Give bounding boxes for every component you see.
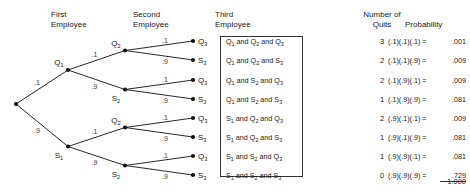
probability-value: .009	[440, 56, 466, 65]
tree-node-label: Q3	[198, 76, 207, 86]
probability-value: .081	[440, 95, 466, 104]
tree-node-label: Q3	[198, 152, 207, 162]
outcome-row: Q1 and S2 and Q3	[226, 76, 283, 86]
tree-edge	[125, 166, 193, 176]
outcome-row: Q1 and Q2 and S3	[226, 56, 283, 66]
edge-probability-label: .9	[162, 97, 168, 104]
tree-edge	[68, 147, 125, 166]
tree-edge	[125, 156, 193, 166]
probability-expression: (.9)(.1)(.1) =	[388, 114, 440, 123]
probability-row: (.9)(.9)(.1) =.081	[380, 152, 466, 161]
outcome-row: S1 and Q2 and S3	[226, 133, 282, 143]
probability-value: .001	[440, 37, 466, 46]
outcome-row: S1 and S2 and Q3	[226, 152, 282, 162]
probability-expression: (.1)(.9)(.1) =	[388, 76, 440, 85]
edge-probability-label: .1	[92, 128, 98, 135]
column-header-third-employee: Third Employee	[215, 10, 251, 29]
outcome-row: Q1 and S2 and S3	[226, 95, 282, 105]
tree-node-label: S1	[55, 151, 63, 161]
probability-row: (.1)(.1)(.9) =.009	[380, 56, 466, 65]
tree-node-label: S2	[112, 170, 120, 180]
probability-row: (.1)(.9)(.9) =.081	[380, 95, 466, 104]
edge-probability-label: .9	[92, 83, 98, 90]
tree-node	[191, 154, 195, 158]
tree-edge	[125, 80, 193, 90]
probability-expression: (.9)(.9)(.1) =	[388, 152, 440, 161]
probability-expression: (.1)(.1)(.1) =	[388, 37, 440, 46]
tree-edge	[125, 118, 193, 128]
tree-node	[191, 116, 195, 120]
tree-node-label: S3	[198, 133, 206, 143]
edge-probability-label: .9	[92, 159, 98, 166]
tree-node	[66, 144, 70, 148]
probability-value: .009	[440, 114, 466, 123]
tree-node	[191, 78, 195, 82]
column-header-probability: Probability	[405, 20, 442, 30]
edge-probability-label: .9	[162, 173, 168, 180]
tree-node-label: S2	[112, 94, 120, 104]
tree-node-label: Q1	[54, 58, 63, 68]
tree-edge	[125, 41, 193, 51]
probability-value: .081	[440, 152, 466, 161]
tree-node-label: Q2	[111, 116, 120, 126]
edge-probability-label: .1	[162, 152, 168, 159]
tree-node-label: Q3	[198, 114, 207, 124]
column-header-number-of-quits: Number of Quits	[352, 10, 412, 29]
outcome-row: S1 and Q2 and Q3	[226, 114, 283, 124]
tree-node	[191, 58, 195, 62]
probability-expression: (.9)(.1)(.9) =	[388, 133, 440, 142]
probability-row: (.9)(.1)(.1) =.009	[380, 114, 466, 123]
edge-probability-label: .9	[162, 58, 168, 65]
probability-total: 1.000	[380, 177, 466, 186]
tree-node-label: S3	[198, 95, 206, 105]
tree-edge	[125, 51, 193, 61]
tree-edge	[16, 70, 68, 104]
edge-probability-label: .1	[162, 76, 168, 83]
outcome-row: S1 and S2 and S3	[226, 171, 281, 181]
tree-node	[14, 102, 18, 106]
edge-probability-label: .1	[92, 51, 98, 58]
column-header-second-employee: Second Employee	[133, 10, 169, 29]
tree-node-label: Q3	[198, 37, 207, 47]
tree-node	[66, 68, 70, 72]
edge-probability-label: .9	[162, 135, 168, 142]
edge-probability-label: .1	[162, 114, 168, 121]
probability-value: .081	[440, 133, 466, 142]
tree-node	[191, 39, 195, 43]
outcome-row: Q1 and Q2 and Q3	[226, 37, 284, 47]
tree-edge	[68, 70, 125, 90]
tree-edge	[16, 104, 68, 147]
column-header-first-employee: First Employee	[51, 10, 87, 29]
probability-value: .009	[440, 76, 466, 85]
probability-row: (.1)(.1)(.1) =.001	[380, 37, 466, 46]
tree-node	[191, 135, 195, 139]
tree-node	[123, 87, 127, 91]
probability-expression: (.1)(.1)(.9) =	[388, 56, 440, 65]
tree-node-label: S3	[198, 171, 206, 181]
tree-edge	[125, 128, 193, 138]
edge-probability-label: .1	[34, 79, 40, 86]
tree-node	[191, 173, 195, 177]
tree-node	[123, 125, 127, 129]
edge-probability-label: .9	[34, 127, 40, 134]
tree-node-label: Q2	[111, 39, 120, 49]
probability-expression: (.1)(.9)(.9) =	[388, 95, 440, 104]
tree-node-label: S3	[198, 56, 206, 66]
tree-node	[123, 163, 127, 167]
tree-node	[123, 48, 127, 52]
probability-row: (.1)(.9)(.1) =.009	[380, 76, 466, 85]
tree-edge	[125, 90, 193, 100]
tree-node	[191, 97, 195, 101]
edge-probability-label: .1	[162, 37, 168, 44]
tree-edge	[68, 51, 125, 71]
tree-edge	[68, 128, 125, 147]
probability-row: (.9)(.1)(.9) =.081	[380, 133, 466, 142]
